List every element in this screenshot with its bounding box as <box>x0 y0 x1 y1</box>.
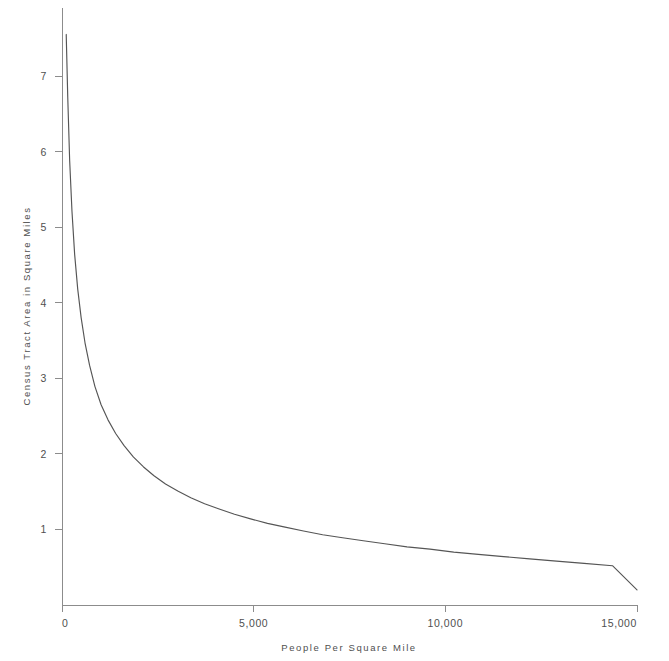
y-axis-title: Census Tract Area in Square Miles <box>21 206 32 405</box>
x-tick-label: 0 <box>62 617 68 629</box>
x-tick-label: 5,000 <box>239 617 268 629</box>
y-tick-label: 1 <box>41 523 47 535</box>
y-tick-label: 2 <box>41 448 47 460</box>
y-tick-label: 4 <box>41 297 47 309</box>
y-tick-label: 6 <box>41 146 47 158</box>
x-tick-label: 10,000 <box>427 617 463 629</box>
x-tick-label: 15,000 <box>601 617 637 629</box>
chart-figure: 1234567 05,00010,00015,000 People Per Sq… <box>0 0 669 661</box>
y-tick-label: 3 <box>41 372 47 384</box>
y-tick-label: 7 <box>41 70 47 82</box>
y-tick-label: 5 <box>41 221 47 233</box>
x-axis-title: People Per Square Mile <box>281 642 417 653</box>
